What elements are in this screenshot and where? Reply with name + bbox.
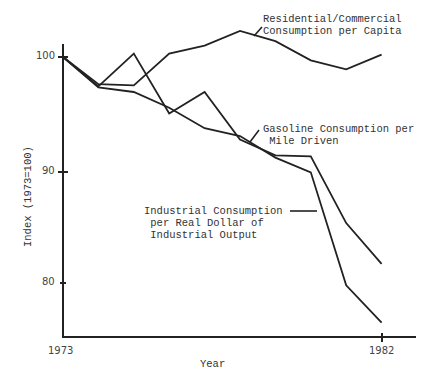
line-chart xyxy=(0,0,440,388)
annotation-residential: Residential/Commercial Consumption per C… xyxy=(263,13,402,37)
y-tick-label-90: 90 xyxy=(42,165,55,176)
y-tick-label-100: 100 xyxy=(36,50,55,61)
leader-gasoline xyxy=(250,130,259,142)
leader-lines xyxy=(250,27,317,211)
y-axis-label: Index (1973=100) xyxy=(22,146,34,247)
annotation-industrial: Industrial Consumption per Real Dollar o… xyxy=(144,205,283,241)
series-industrial xyxy=(63,57,382,323)
y-tick-label-80: 80 xyxy=(42,276,55,287)
series-lines xyxy=(63,31,382,323)
series-residential-commercial xyxy=(63,31,382,85)
leader-residential xyxy=(254,27,262,36)
x-tick-label-1982: 1982 xyxy=(369,345,394,356)
x-axis-label: Year xyxy=(200,358,225,370)
x-tick-label-1973: 1973 xyxy=(48,345,73,356)
annotation-gasoline: Gasoline Consumption per Mile Driven xyxy=(263,123,414,147)
